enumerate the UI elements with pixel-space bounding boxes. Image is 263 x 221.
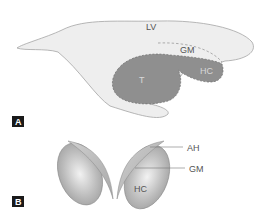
panel-label-b: B: [15, 197, 22, 207]
thalamus-region: [112, 54, 223, 104]
diagram-canvas: LV GM T HC A AH GM HC B: [0, 0, 263, 221]
label-gm-a: GM: [180, 45, 195, 55]
label-lv: LV: [146, 22, 156, 32]
label-t: T: [139, 75, 145, 85]
panel-a: LV GM T HC A: [12, 21, 253, 127]
panel-label-a: A: [15, 117, 22, 127]
label-hc-a: HC: [200, 66, 213, 76]
label-hc-b: HC: [134, 184, 147, 194]
label-gm-b: GM: [189, 164, 204, 174]
label-ah: AH: [187, 143, 200, 153]
panel-b: AH GM HC B: [12, 137, 204, 215]
